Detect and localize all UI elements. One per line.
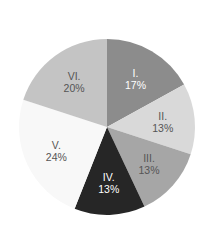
slice-category-label: IV. <box>103 171 115 183</box>
pie-chart: I.17%II.13%III.13%IV.13%V.24%VI.20% <box>0 0 203 249</box>
slice-category-label: V. <box>52 139 61 151</box>
slice-category-label: III. <box>143 152 155 164</box>
slice-percent-label: 13% <box>152 122 173 134</box>
slice-percent-label: 13% <box>138 164 159 176</box>
slice-category-label: II. <box>158 110 167 122</box>
slice-category-label: VI. <box>68 70 81 82</box>
slice-percent-label: 24% <box>46 151 67 163</box>
slice-percent-label: 20% <box>64 82 85 94</box>
slice-percent-label: 17% <box>125 79 146 91</box>
slice-percent-label: 13% <box>98 183 119 195</box>
slice-category-label: I. <box>133 67 139 79</box>
